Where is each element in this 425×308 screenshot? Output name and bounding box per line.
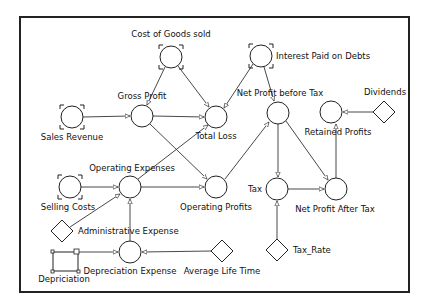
node-label: Net Profit before Tax (237, 88, 324, 98)
node-label: Total Loss (194, 131, 237, 141)
converter-circle (325, 178, 347, 200)
node-label: Tax_Rate (292, 245, 331, 255)
edge-interest-to-total-loss (224, 64, 253, 108)
constant-diamond (51, 220, 73, 242)
converter-circle (266, 178, 288, 200)
node-label: Cost of Goods sold (131, 29, 210, 39)
node-gross-profit[interactable]: Gross Profit (118, 91, 167, 127)
node-sales-revenue[interactable]: Sales Revenue (41, 105, 103, 142)
node-label: Gross Profit (118, 91, 167, 101)
node-label: Tax (247, 184, 262, 194)
constant-diamond (373, 101, 395, 123)
node-selling-costs[interactable]: Selling Costs (41, 175, 96, 212)
node-label: Net Profit After Tax (295, 204, 375, 214)
edge-gross-profit-to-total-loss (153, 116, 204, 117)
constant-diamond (266, 239, 288, 261)
edge-sales-revenue-to-gross-profit (83, 116, 130, 117)
node-label: Depriciation (38, 274, 90, 284)
node-label: Average Life Time (184, 266, 260, 276)
converter-circle (61, 106, 83, 128)
converter-circle (131, 105, 153, 127)
node-depriciation[interactable]: Depriciation (38, 249, 90, 284)
node-label: Selling Costs (41, 202, 96, 212)
node-label: Depreciation Expense (83, 266, 176, 276)
node-label: Operating Expenses (89, 163, 175, 173)
converter-circle (267, 102, 289, 124)
node-label: Sales Revenue (41, 132, 103, 142)
converter-circle (205, 106, 227, 128)
node-interest-paid-on-debts[interactable]: Interest Paid on Debts (249, 44, 371, 68)
node-label: Retained Profits (305, 127, 373, 137)
node-depreciation-expense[interactable]: Depreciation Expense (83, 241, 176, 276)
converter-circle (119, 176, 141, 198)
edge-cogs-to-total-loss (178, 66, 209, 107)
converter-circle (250, 45, 272, 67)
flow-valve-icon (74, 249, 79, 254)
stock-handle (51, 270, 54, 273)
node-tax[interactable]: Tax (247, 178, 288, 200)
stock-handle (51, 250, 54, 253)
node-average-life-time[interactable]: Average Life Time (184, 240, 260, 276)
node-total-loss[interactable]: Total Loss (194, 106, 237, 141)
node-operating-profits[interactable]: Operating Profits (180, 176, 252, 212)
converter-circle (59, 176, 81, 198)
stock-handle (77, 270, 80, 273)
node-dividends[interactable]: Dividends (364, 87, 407, 123)
converter-circle (119, 241, 141, 263)
node-cost-of-goods-sold[interactable]: Cost of Goods sold (131, 29, 210, 69)
constant-diamond (211, 240, 233, 262)
node-label: Administrative Expense (78, 226, 179, 236)
node-net-profit-after-tax[interactable]: Net Profit After Tax (295, 178, 375, 214)
node-label: Operating Profits (180, 202, 252, 212)
converter-circle (205, 176, 227, 198)
edge-average-life-time-to-depreciation-expense (142, 251, 212, 252)
node-label: Dividends (364, 87, 407, 97)
node-administrative-expense[interactable]: Administrative Expense (51, 220, 179, 242)
converter-circle (320, 101, 342, 123)
edges (70, 64, 373, 252)
node-net-profit-before-tax[interactable]: Net Profit before Tax (237, 88, 324, 124)
node-label: Interest Paid on Debts (276, 51, 371, 61)
converter-circle (160, 46, 182, 68)
node-tax-rate[interactable]: Tax_Rate (266, 239, 331, 261)
stock-box (53, 252, 78, 271)
node-retained-profits[interactable]: Retained Profits (305, 101, 373, 137)
node-operating-expenses[interactable]: Operating Expenses (89, 163, 175, 198)
diagram-canvas: Cost of Goods sold Interest Paid on Debt… (0, 0, 425, 308)
